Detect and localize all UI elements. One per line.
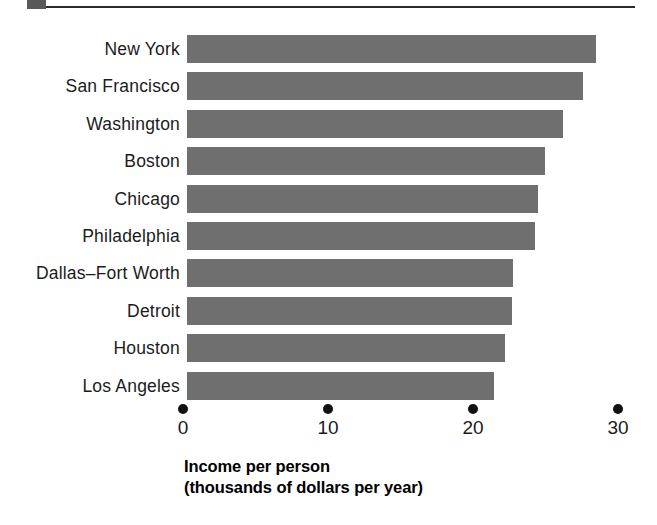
- x-axis-tick-label: 30: [596, 417, 640, 439]
- bar-category-label: Dallas–Fort Worth: [36, 259, 180, 287]
- bar: [187, 334, 505, 362]
- bar: [187, 35, 596, 63]
- bar: [187, 147, 545, 175]
- tick-dot-marker: [468, 404, 478, 414]
- x-axis: 0102030: [0, 404, 657, 456]
- bar-row: San Francisco: [0, 72, 657, 100]
- bar-row: New York: [0, 35, 657, 63]
- x-axis-tick-label: 10: [306, 417, 350, 439]
- bar-category-label: Houston: [113, 334, 180, 362]
- tick-dot-marker: [178, 404, 188, 414]
- header-decoration: [0, 0, 657, 16]
- bar-row: Los Angeles: [0, 372, 657, 400]
- bar-row: Detroit: [0, 297, 657, 325]
- x-axis-tick-label: 0: [161, 417, 205, 439]
- bar-category-label: Boston: [124, 147, 180, 175]
- bar-row: Boston: [0, 147, 657, 175]
- x-axis-title-line1: Income per person: [184, 456, 604, 477]
- bar: [187, 72, 583, 100]
- bar: [187, 185, 538, 213]
- corner-square-mark: [27, 0, 46, 9]
- bar-category-label: Philadelphia: [82, 222, 180, 250]
- x-axis-title-line2: (thousands of dollars per year): [184, 477, 604, 498]
- horizontal-rule: [46, 6, 635, 8]
- x-axis-tick-label: 20: [451, 417, 495, 439]
- bar-row: Dallas–Fort Worth: [0, 259, 657, 287]
- bar-row: Philadelphia: [0, 222, 657, 250]
- bar-category-label: Washington: [86, 110, 180, 138]
- bar-category-label: Los Angeles: [82, 372, 180, 400]
- bar-category-label: San Francisco: [66, 72, 180, 100]
- bar-category-label: New York: [104, 35, 180, 63]
- bar-row: Chicago: [0, 185, 657, 213]
- bar: [187, 110, 563, 138]
- x-axis-title: Income per person (thousands of dollars …: [184, 456, 604, 498]
- bar-category-label: Chicago: [114, 185, 180, 213]
- bar: [187, 259, 513, 287]
- plot-area: New YorkSan FranciscoWashingtonBostonChi…: [0, 26, 657, 404]
- bar-row: Houston: [0, 334, 657, 362]
- bar-row: Washington: [0, 110, 657, 138]
- bar: [187, 372, 494, 400]
- bar-category-label: Detroit: [127, 297, 180, 325]
- bar: [187, 222, 535, 250]
- tick-dot-marker: [323, 404, 333, 414]
- bar: [187, 297, 512, 325]
- tick-dot-marker: [613, 404, 623, 414]
- bar-chart: New YorkSan FranciscoWashingtonBostonChi…: [0, 26, 657, 525]
